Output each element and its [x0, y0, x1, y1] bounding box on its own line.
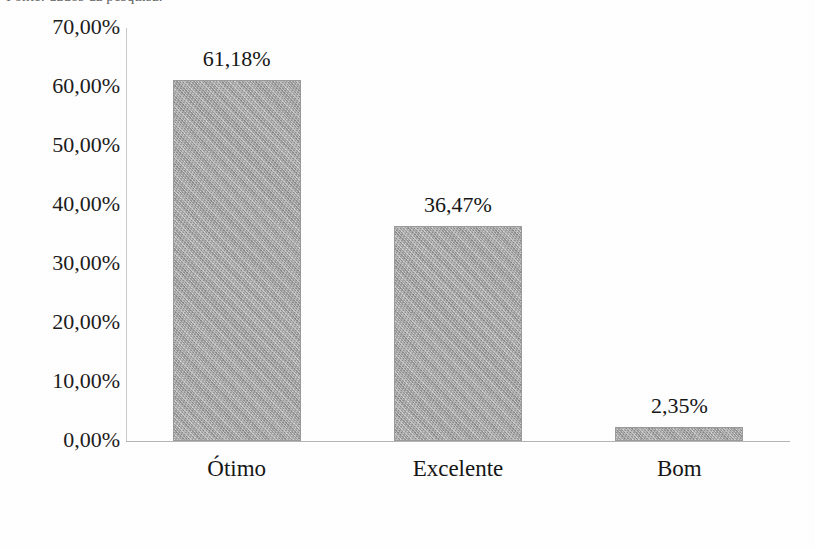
- y-axis-tick-label: 50,00%: [2, 134, 120, 156]
- scanned-page: Fonte: dados da pesquisa. 70,00%60,00%50…: [0, 0, 815, 547]
- bar-group: 61,18%: [173, 28, 301, 441]
- x-axis-line: [126, 441, 790, 442]
- x-axis-category-label: Ótimo: [126, 455, 347, 483]
- bar: [615, 427, 743, 441]
- y-axis-tick-label: 60,00%: [2, 75, 120, 97]
- x-axis-category-label: Excelente: [347, 455, 568, 483]
- y-axis-tick-labels: 70,00%60,00%50,00%40,00%30,00%20,00%10,0…: [0, 0, 120, 547]
- y-axis-tick-label: 30,00%: [2, 252, 120, 274]
- y-axis-tick-label: 20,00%: [2, 311, 120, 333]
- y-axis-tick-label: 0,00%: [2, 429, 120, 451]
- bar-group: 36,47%: [394, 28, 522, 441]
- y-axis-tick-label: 70,00%: [2, 16, 120, 38]
- x-axis-category-labels: ÓtimoExcelenteBom: [126, 455, 790, 495]
- plot-area: 61,18%36,47%2,35%: [126, 28, 790, 441]
- y-axis-tick-label: 40,00%: [2, 193, 120, 215]
- bar-value-label: 2,35%: [615, 395, 743, 417]
- bar-group: 2,35%: [615, 28, 743, 441]
- bar: [173, 80, 301, 441]
- bar-value-label: 61,18%: [173, 48, 301, 70]
- x-axis-category-label: Bom: [569, 455, 790, 483]
- bar-chart: 70,00%60,00%50,00%40,00%30,00%20,00%10,0…: [0, 0, 815, 547]
- y-axis-tick-label: 10,00%: [2, 370, 120, 392]
- bar-value-label: 36,47%: [394, 194, 522, 216]
- bar: [394, 226, 522, 441]
